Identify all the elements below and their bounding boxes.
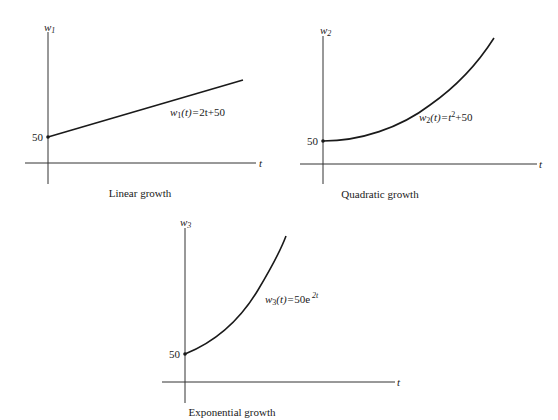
exponential-growth-chart: w3 t 50 w3(t)=50e2t Exponential growth [162,216,401,418]
intercept-label: 50 [169,348,181,360]
formula-label: w1(t)=2t+50 [170,106,225,120]
quadratic-curve [323,38,494,141]
intercept-label: 50 [32,131,44,143]
caption: Linear growth [109,187,172,199]
x-axis-label: t [397,376,401,388]
formula-label: w2(t)=t2+50 [419,110,473,125]
y-axis-label: w2 [320,24,331,38]
caption: Exponential growth [188,406,276,418]
x-axis-label: t [259,157,263,169]
linear-growth-chart: w1 t 50 w1(t)=2t+50 Linear growth [25,21,263,199]
y-axis-label: w3 [180,216,191,230]
formula-label: w3(t)=50e2t [265,291,319,307]
intercept-label: 50 [307,135,319,147]
y-axis-label: w1 [44,21,55,35]
growth-diagrams: w1 t 50 w1(t)=2t+50 Linear growth w2 t 5… [0,0,558,420]
caption: Quadratic growth [341,188,419,200]
quadratic-growth-chart: w2 t 50 w2(t)=t2+50 Quadratic growth [300,24,543,200]
x-axis-label: t [539,158,543,170]
